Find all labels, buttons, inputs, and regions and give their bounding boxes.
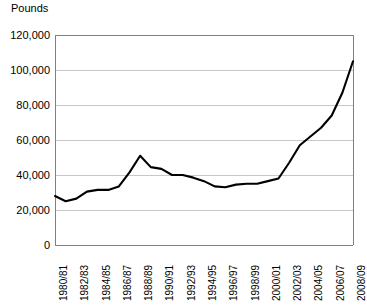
y-axis-tick-label: 20,000: [0, 205, 55, 216]
x-axis-tick-label: 2006/07: [336, 265, 346, 301]
x-axis-tick-label: 2002/03: [293, 265, 303, 301]
x-axis-tick-label: 1998/99: [251, 265, 261, 301]
x-axis-tick-label: 1982/83: [80, 265, 90, 301]
data-series-line: [55, 61, 353, 201]
y-axis-tick-label: 100,000: [0, 65, 55, 76]
x-axis-tick-label: 1986/87: [123, 265, 133, 301]
y-axis-tick-label: 60,000: [0, 135, 55, 146]
y-axis-tick-label: 80,000: [0, 100, 55, 111]
x-axis-tick-label: 1980/81: [59, 265, 69, 301]
x-axis-tick-label: 1990/91: [165, 265, 175, 301]
x-axis-tick-label: 1984/85: [102, 265, 112, 301]
x-axis-tick-label: 2008/09: [357, 265, 367, 301]
x-axis-tick-label: 2000/01: [272, 265, 282, 301]
x-axis-tick-label: 1994/95: [208, 265, 218, 301]
x-axis-tick-label: 2004/05: [314, 265, 324, 301]
y-axis-tick-label: 0: [0, 240, 55, 251]
gridlines: [55, 35, 353, 210]
x-axis-tick-label: 1996/97: [229, 265, 239, 301]
x-axis-tick-label: 1992/93: [187, 265, 197, 301]
y-axis-tick-label: 120,000: [0, 30, 55, 41]
y-axis-tick-label: 40,000: [0, 170, 55, 181]
x-axis-tick-label: 1988/89: [144, 265, 154, 301]
